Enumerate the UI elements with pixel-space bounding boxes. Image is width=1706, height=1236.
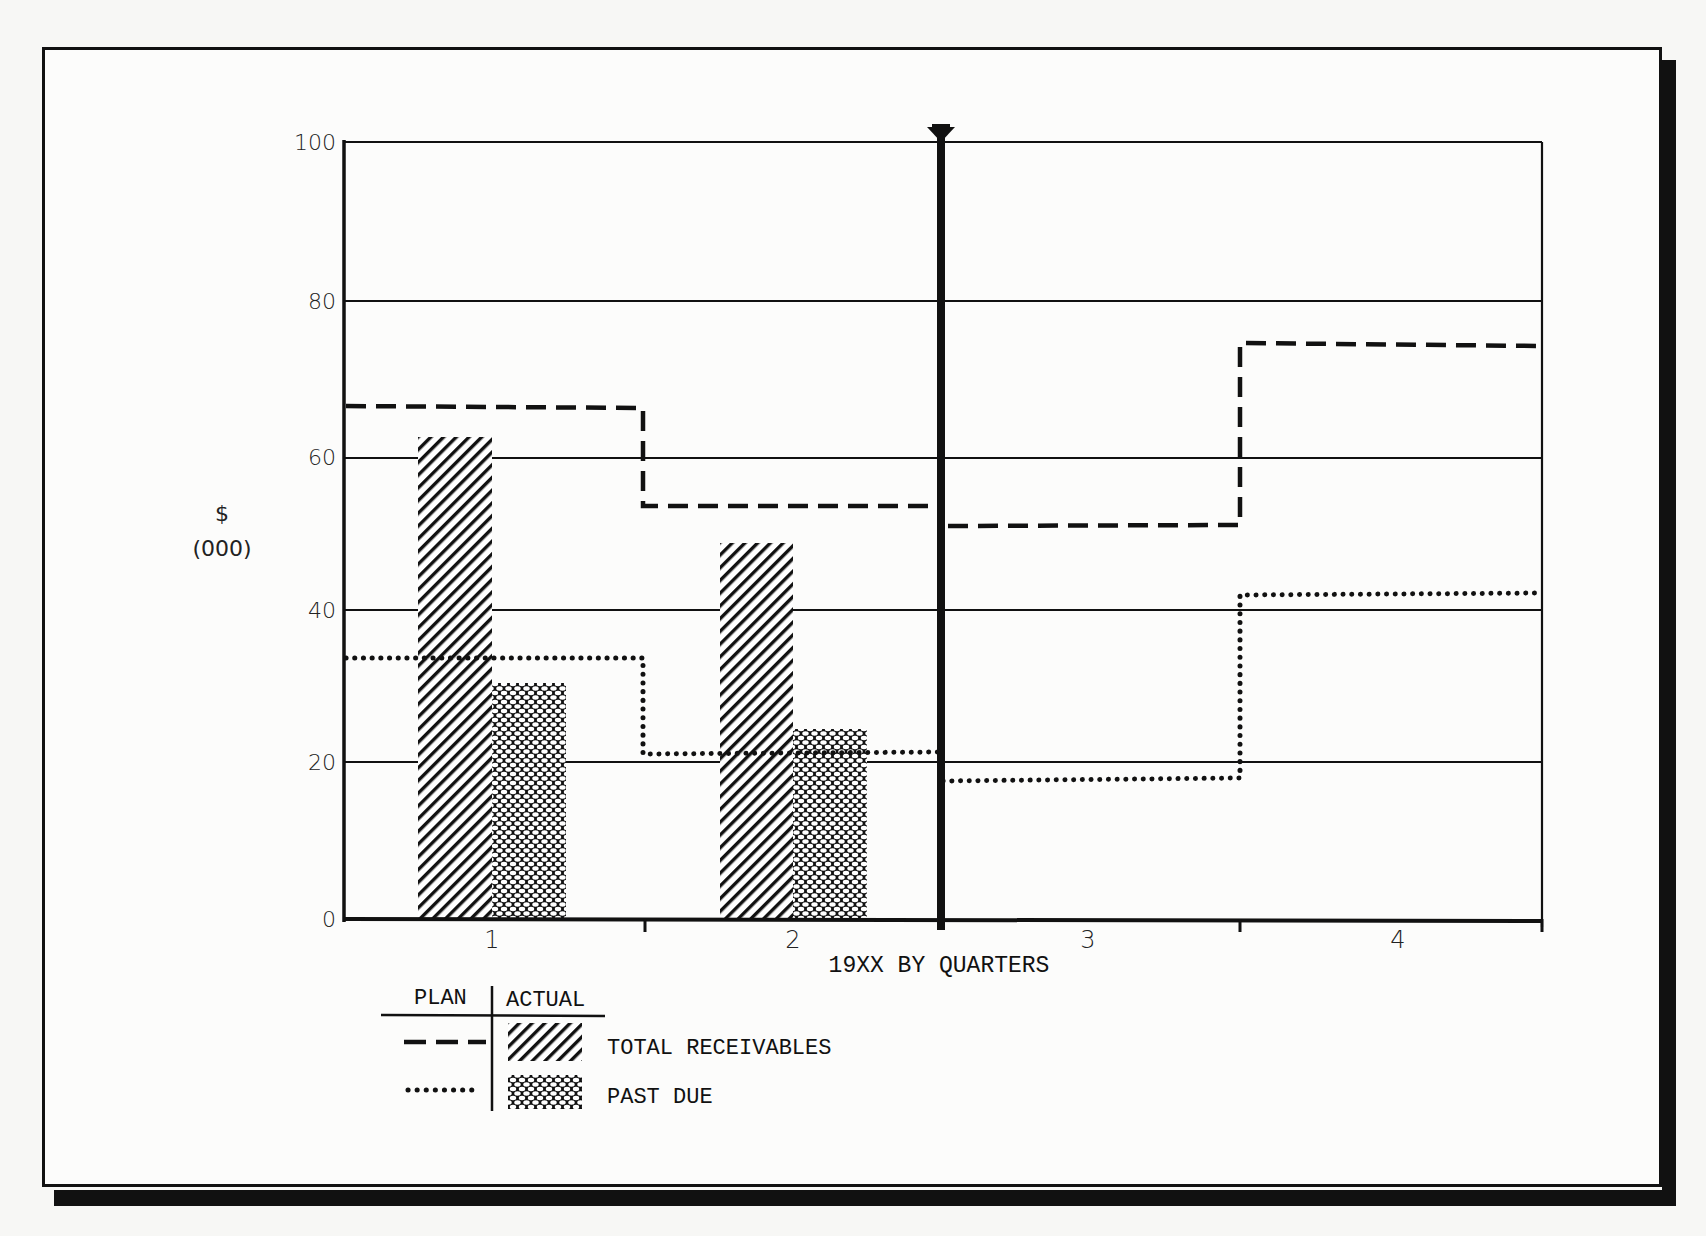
x-category-labels: 1 2 3 4 [484, 926, 1405, 954]
y-axis-title-symbol: $ [215, 501, 229, 526]
bar-q1-total-receivables[interactable] [418, 437, 492, 919]
y-tick-60: 60 [308, 445, 336, 470]
legend-plan-header: PLAN [414, 986, 467, 1011]
y-tick-20: 20 [308, 750, 336, 775]
category-q3: 3 [1080, 926, 1095, 954]
marker-down-arrow-icon [927, 127, 955, 142]
category-q1: 1 [484, 926, 499, 954]
y-tick-0: 0 [322, 907, 336, 932]
bar-q2-past-due[interactable] [793, 729, 867, 919]
legend-actual-header: ACTUAL [506, 988, 585, 1013]
chart: 0 20 40 60 80 100 $ (000) 1 2 3 4 19XX B… [0, 0, 1706, 1236]
legend-entry-total-receivables: TOTAL RECEIVABLES [607, 1036, 831, 1061]
category-q4: 4 [1390, 926, 1405, 954]
x-axis-title: 19XX BY QUARTERS [829, 953, 1050, 979]
y-tick-40: 40 [308, 598, 336, 623]
bar-q2-total-receivables[interactable] [720, 543, 793, 919]
legend-actual-diagonal-swatch [508, 1023, 582, 1061]
y-axis-title-units: (000) [192, 536, 251, 561]
legend-actual-crosshatch-swatch [508, 1075, 582, 1109]
legend-entry-past-due: PAST DUE [607, 1085, 713, 1110]
y-tick-labels: 0 20 40 60 80 100 [294, 130, 336, 932]
bar-q1-past-due[interactable] [492, 683, 566, 919]
actual-bars [418, 437, 867, 919]
category-q2: 2 [785, 926, 800, 954]
y-tick-80: 80 [308, 289, 336, 314]
legend: PLAN ACTUAL TOTAL RECEIVABLES PAST DUE [381, 986, 831, 1111]
y-tick-100: 100 [294, 130, 336, 155]
